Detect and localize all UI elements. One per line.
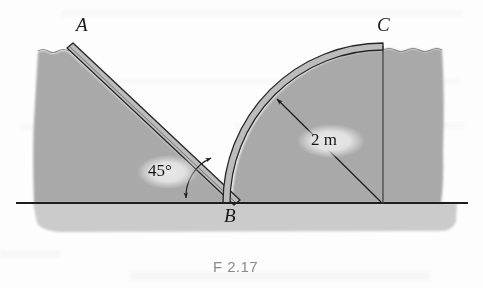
label-angle-45: 45° bbox=[148, 161, 172, 181]
label-point-b: B bbox=[224, 205, 236, 227]
label-point-c: C bbox=[377, 14, 390, 36]
label-radius-2m: 2 m bbox=[311, 130, 337, 150]
figure-f217 bbox=[0, 0, 483, 288]
label-point-a: A bbox=[76, 14, 88, 36]
soil-region bbox=[33, 203, 457, 232]
figure-caption: F 2.17 bbox=[213, 258, 258, 275]
